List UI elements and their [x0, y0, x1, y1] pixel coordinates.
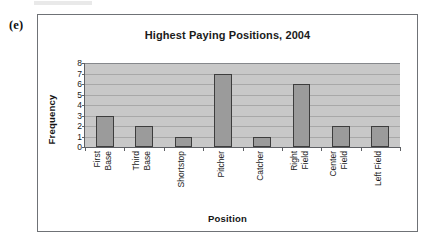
y-axis-tick-mark: [82, 63, 85, 64]
scan-artifact: [34, 1, 92, 5]
x-axis-tick-label-line: Pitcher: [216, 151, 227, 209]
y-axis-tick-mark: [82, 137, 85, 138]
bar: [293, 84, 311, 147]
bar: [214, 74, 232, 148]
x-axis-tick-label-line: Field: [338, 151, 349, 209]
bar: [332, 126, 350, 147]
x-axis-tick-label-line: Catcher: [255, 151, 266, 209]
y-axis-tick-mark: [82, 84, 85, 85]
x-axis-tick-label: Left Field: [373, 151, 385, 209]
x-axis-tick-label-line: Left Field: [373, 151, 384, 209]
y-axis-tick-mark: [82, 105, 85, 106]
y-axis-tick-mark: [82, 95, 85, 96]
bar: [135, 126, 153, 147]
x-axis-tick-mark: [400, 147, 401, 151]
plot-area: 012345678: [84, 63, 400, 148]
y-axis-tick-mark: [82, 116, 85, 117]
x-axis-tick-label: Pitcher: [216, 151, 228, 209]
chart-title: Highest Paying Positions, 2004: [38, 29, 417, 41]
x-axis-tick-label-line: Shortstop: [176, 151, 187, 209]
x-axis-tick-label-line: First: [92, 151, 103, 209]
x-axis-tick-label-line: Base: [142, 151, 153, 209]
chart-frame: Highest Paying Positions, 2004 Frequency…: [37, 14, 418, 232]
x-axis-tick-label-line: Center: [328, 151, 339, 209]
x-axis-tick-label-line: Right: [289, 151, 300, 209]
x-axis-tick-label: CenterField: [328, 151, 352, 209]
figure-part-label: (e): [9, 18, 23, 33]
x-axis-title: Position: [38, 213, 417, 224]
bar: [371, 126, 389, 147]
x-axis-tick-label-line: Base: [102, 151, 113, 209]
y-axis-title: Frequency: [46, 77, 58, 162]
bar: [96, 116, 114, 148]
x-axis-tick-label: FirstBase: [92, 151, 116, 209]
bar: [253, 137, 271, 148]
x-axis-tick-labels: FirstBaseThirdBaseShortstopPitcherCatche…: [84, 151, 399, 209]
bar: [175, 137, 193, 148]
y-axis-tick-mark: [82, 74, 85, 75]
x-axis-tick-label: ThirdBase: [131, 151, 155, 209]
x-axis-tick-label-line: Third: [131, 151, 142, 209]
x-axis-tick-label: Catcher: [255, 151, 267, 209]
bar-series: [85, 63, 400, 147]
x-axis-tick-label: Shortstop: [176, 151, 188, 209]
y-axis-tick-mark: [82, 126, 85, 127]
x-axis-tick-label-line: Field: [299, 151, 310, 209]
x-axis-tick-label: RightField: [289, 151, 313, 209]
